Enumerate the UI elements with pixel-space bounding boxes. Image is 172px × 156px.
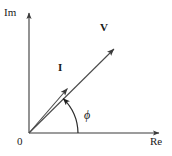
imaginary-axis-label: Im [4, 7, 16, 18]
origin-label: 0 [17, 136, 23, 147]
real-axis-label: Re [150, 136, 162, 147]
phasor-diagram-canvas [0, 0, 172, 156]
current-phasor-label: I [58, 62, 62, 73]
current-phasor-line [29, 89, 68, 134]
voltage-phasor-label: V [100, 22, 108, 33]
phase-angle-arc [63, 99, 78, 133]
phasor-diagram-figure: Im Re V I ϕ 0 [0, 0, 172, 156]
voltage-phasor-line [29, 49, 114, 133]
phase-angle-label: ϕ [84, 109, 90, 121]
